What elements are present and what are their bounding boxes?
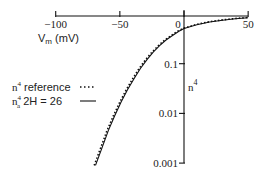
x-tick-label: 0: [175, 18, 181, 30]
legend-label: n4 reference: [12, 80, 71, 93]
data-curves: [94, 18, 248, 166]
x-axis-label: Vm (mV): [38, 32, 79, 46]
legend: n4 referencen4a 2H = 26: [12, 80, 96, 110]
y-axis-label: n4: [188, 78, 198, 93]
x-tick-label: −100: [44, 18, 67, 30]
x-tick-label: 50: [243, 18, 255, 30]
model-curve: [96, 18, 249, 166]
x-tick-label: −50: [111, 18, 129, 30]
y-tick-label: 0.01: [159, 107, 178, 119]
y-tick-label: 0.001: [153, 157, 178, 169]
chart: −100−50050Vm (mV)0.10.010.001n4 n4 refer…: [0, 0, 262, 176]
reference-curve: [94, 18, 248, 166]
y-tick-label: 0.1: [164, 58, 178, 70]
legend-label: n4a 2H = 26: [12, 94, 62, 110]
